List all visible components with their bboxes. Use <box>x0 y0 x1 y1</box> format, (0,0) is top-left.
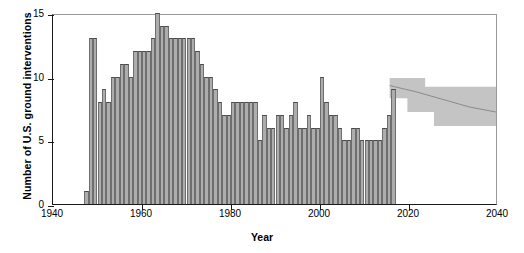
x-tick-mark <box>142 204 143 210</box>
bar <box>391 89 395 204</box>
x-axis-title: Year <box>0 231 524 243</box>
x-tick-label: 1940 <box>29 209 75 219</box>
y-tick-mark <box>48 206 54 207</box>
x-tick-label: 2040 <box>474 209 520 219</box>
x-tick-mark <box>409 204 410 210</box>
y-tick-mark <box>48 79 54 80</box>
plot-area <box>52 14 497 205</box>
y-tick-mark <box>48 15 54 16</box>
projection-band-polygon <box>390 78 496 126</box>
x-tick-label: 2020 <box>385 209 431 219</box>
chart-figure: Number of U.S. ground interventions Year… <box>0 0 524 253</box>
plot-inner <box>53 15 496 204</box>
y-tick-mark <box>48 142 54 143</box>
y-tick-label: 5 <box>18 136 44 146</box>
y-tick-label: 10 <box>18 73 44 83</box>
x-tick-label: 2000 <box>296 209 342 219</box>
x-axis-tick-labels: 194019601980200020202040 <box>0 209 524 225</box>
x-tick-label: 1960 <box>118 209 164 219</box>
y-tick-label: 15 <box>18 9 44 19</box>
x-tick-label: 1980 <box>207 209 253 219</box>
x-tick-mark <box>231 204 232 210</box>
x-tick-mark <box>320 204 321 210</box>
